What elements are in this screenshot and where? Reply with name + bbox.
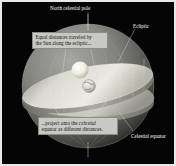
- label-celestial-equator: Celestial equator: [131, 133, 174, 139]
- callout-bottom-line1-pre: ...project onto the: [41, 120, 78, 126]
- sun-sphere: [72, 62, 89, 79]
- diagram-scene: North celestial pole Ecliptic Celestial …: [2, 2, 174, 164]
- callout-projection: ...project onto the celestial equator as…: [38, 117, 118, 135]
- label-north-celestial-pole: North celestial pole: [50, 5, 90, 11]
- label-ecliptic: Ecliptic: [133, 23, 149, 29]
- earth-globe: [83, 80, 96, 93]
- callout-equal-distances: Equal distances traveled by the Sun alon…: [32, 32, 108, 50]
- callout-top-line2: the Sun along the ecliptic...: [35, 40, 104, 46]
- figure-frame: North celestial pole Ecliptic Celestial …: [0, 0, 176, 166]
- callout-bottom-line2: equator as different distances.: [41, 126, 114, 132]
- callout-bottom-line1-emphasis: celestial: [79, 120, 96, 126]
